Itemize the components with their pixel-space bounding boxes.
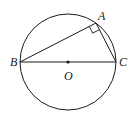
chord-ac — [96, 23, 116, 62]
chord-ab — [20, 23, 96, 62]
label-c: C — [119, 55, 128, 69]
geometry-diagram: A B C O — [0, 0, 135, 116]
label-b: B — [10, 55, 18, 69]
label-o: O — [64, 69, 73, 83]
label-a: A — [97, 9, 106, 23]
center-point-o — [66, 60, 69, 63]
